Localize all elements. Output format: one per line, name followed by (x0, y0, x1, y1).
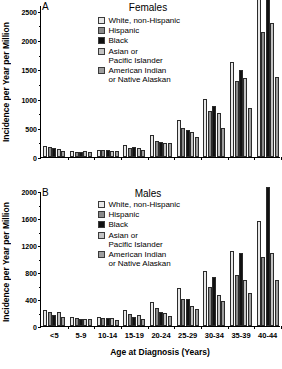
legend-swatch-icon (98, 67, 105, 74)
y-tick-minor (39, 114, 41, 115)
legend-swatch-icon (98, 211, 105, 218)
x-tick-label: 25-29 (178, 331, 197, 340)
bar (168, 143, 172, 157)
y-tick-label: 1200 (21, 243, 37, 250)
legend-label: Asian or Pacific Islander (109, 47, 163, 65)
x-tick (148, 157, 149, 160)
x-tick-label: 5-9 (76, 331, 87, 340)
bar (195, 137, 199, 157)
legend-label: White, non-Hispanic (109, 16, 181, 25)
y-axis-label-b: Incidence per Year per Million (1, 192, 11, 332)
x-tick (121, 157, 122, 160)
bar (248, 293, 252, 326)
y-tick-label: 1500 (21, 67, 37, 74)
bar (141, 319, 145, 326)
bar (115, 151, 119, 157)
y-tick-label: 800 (25, 270, 37, 277)
x-tick-label: <5 (50, 331, 59, 340)
y-tick-minor (39, 206, 41, 207)
legend-swatch-icon (98, 17, 105, 24)
y-tick (38, 300, 41, 301)
bar (61, 317, 65, 326)
x-axis-title: Age at Diagnosis (Years) (40, 347, 280, 357)
y-tick-minor (39, 85, 41, 86)
y-tick (38, 12, 41, 13)
y-tick (38, 70, 41, 71)
legend-swatch-icon (98, 201, 105, 208)
bar (88, 319, 92, 326)
x-tick-label: 20-24 (151, 331, 170, 340)
x-tick (228, 157, 229, 160)
y-tick (38, 41, 41, 42)
legend-label: Black (109, 36, 129, 45)
x-tick (228, 326, 229, 329)
bar (221, 128, 225, 157)
legend-item: Hispanic (98, 210, 180, 219)
x-tick (201, 326, 202, 329)
y-tick-minor (39, 143, 41, 144)
panel-a-females: Incidence per Year per Million A Females… (0, 0, 282, 184)
legend-item: American Indian or Native Alaskan (98, 66, 180, 84)
legend-item: Black (98, 36, 180, 45)
legend-swatch-icon (98, 27, 105, 34)
x-tick (94, 326, 95, 329)
y-tick-label: 2500 (21, 8, 37, 15)
y-tick-label: 1600 (21, 216, 37, 223)
x-tick (201, 157, 202, 160)
bar (168, 316, 172, 326)
y-tick-label: 1000 (21, 96, 37, 103)
x-tick (281, 157, 282, 160)
x-tick (148, 326, 149, 329)
legend-swatch-icon (98, 221, 105, 228)
y-tick-label: 400 (25, 297, 37, 304)
y-tick-label: 2000 (21, 38, 37, 45)
legend-item: American Indian or Native Alaskan (98, 250, 180, 268)
bar (88, 152, 92, 157)
y-tick (38, 100, 41, 101)
x-tick (68, 157, 69, 160)
legend-item: Hispanic (98, 26, 180, 35)
x-tick (281, 326, 282, 329)
legend-a: White, non-HispanicHispanicBlackAsian or… (98, 16, 180, 85)
y-tick-minor (39, 233, 41, 234)
legend-item: White, non-Hispanic (98, 16, 180, 25)
legend-item: Black (98, 220, 180, 229)
panel-b-males: Incidence per Year per Million B Males 0… (0, 184, 282, 369)
legend-swatch-icon (98, 251, 105, 258)
y-tick-minor (39, 260, 41, 261)
x-tick (254, 326, 255, 329)
bar (115, 320, 119, 326)
x-tick-label: 10-14 (98, 331, 117, 340)
legend-label: Hispanic (109, 210, 140, 219)
x-tick-label: 35-39 (231, 331, 250, 340)
y-tick (38, 158, 41, 159)
bar (275, 280, 279, 326)
x-tick (68, 326, 69, 329)
bar (141, 150, 145, 157)
y-tick (38, 192, 41, 193)
x-tick (254, 157, 255, 160)
bar (275, 77, 279, 157)
x-tick (174, 326, 175, 329)
legend-item: White, non-Hispanic (98, 200, 180, 209)
x-tick-label: 30-34 (205, 331, 224, 340)
y-tick-minor (39, 314, 41, 315)
legend-b: White, non-HispanicHispanicBlackAsian or… (98, 200, 180, 269)
y-tick (38, 273, 41, 274)
legend-label: Hispanic (109, 26, 140, 35)
y-tick-label: 0 (33, 324, 37, 331)
y-tick-minor (39, 56, 41, 57)
legend-swatch-icon (98, 37, 105, 44)
legend-label: American Indian or Native Alaskan (109, 66, 171, 84)
y-tick (38, 327, 41, 328)
y-tick-minor (39, 287, 41, 288)
x-tick (121, 326, 122, 329)
y-tick (38, 129, 41, 130)
y-tick-label: 2000 (21, 189, 37, 196)
y-tick (38, 219, 41, 220)
y-tick-label: 500 (25, 125, 37, 132)
legend-swatch-icon (98, 232, 105, 239)
bar (61, 151, 65, 157)
legend-label: Black (109, 220, 129, 229)
legend-label: American Indian or Native Alaskan (109, 250, 171, 268)
